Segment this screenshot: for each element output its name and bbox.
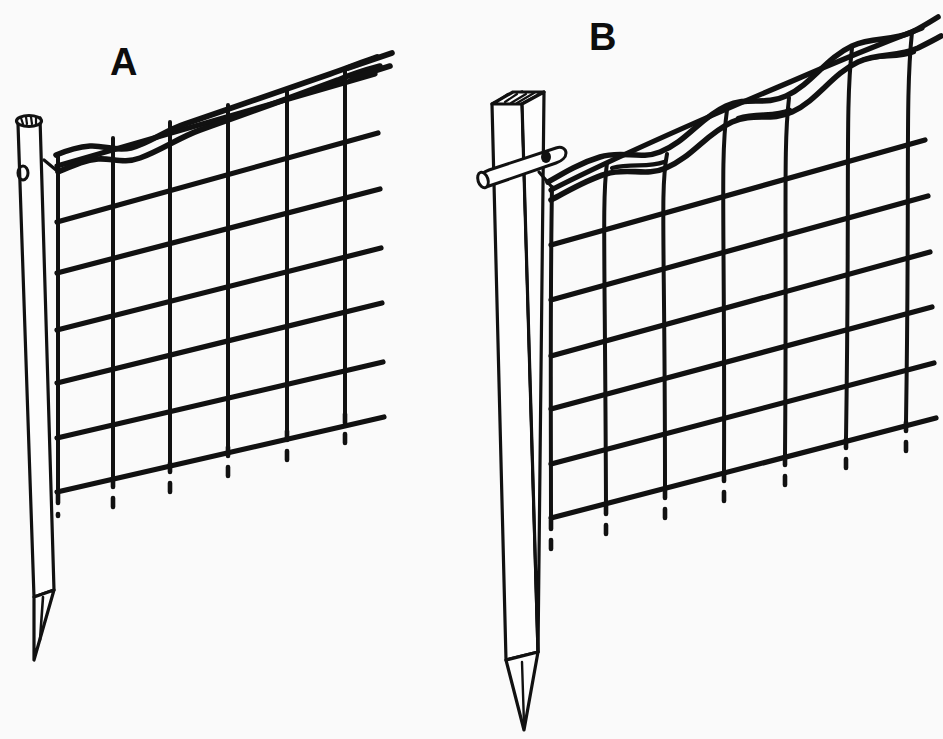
mesh-a-wire-h-1 [57,74,375,166]
mesh-b-wire-v-2 [604,163,607,505]
post-b-rod-hole-marker [541,151,551,163]
mesh-b-wire-v-3 [663,154,667,489]
post-b [492,92,544,730]
figure-root: A [0,0,943,739]
post-a-mesh-tie [44,160,56,170]
mesh-b-top-wire-overlap-1 [612,162,664,168]
panel-a-label: A [110,41,137,83]
mesh-a-vertical-wires [58,71,345,494]
mesh-b-wire-v-1 [551,187,552,520]
mesh-b-wire-h-7 [551,418,936,518]
post-a-cap-hatch-2 [26,117,27,124]
mesh-b-wire-v-7 [906,32,912,422]
panel-a: A [17,41,393,660]
post-a-cap-hatch-3 [31,117,32,124]
mesh-a-horizontal-wires [57,74,384,492]
mesh-b-wire-h-3 [551,196,928,300]
mesh-b-wire-v-6 [846,48,852,439]
technical-line-drawing: A [0,0,943,739]
panel-b-label: B [589,16,616,58]
mesh-b-wire-h-5 [551,307,932,409]
post-a-shaft [18,118,54,597]
panel-b: B [476,16,941,730]
mesh-a-top-wire-upper [56,57,377,155]
mesh-b-wire-h-4 [551,252,930,356]
mesh-b-wire-h-6 [551,363,934,464]
post-a-top-cap [17,116,42,127]
post-a [17,116,55,661]
